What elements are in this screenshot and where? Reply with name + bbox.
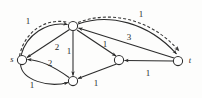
node-v1[interactable]	[68, 21, 77, 30]
flow-network-figure: s t 1 1 2 1 1 3 2 1 1 1	[0, 0, 202, 98]
edge-label-v1-v3: 1	[103, 40, 108, 49]
node-label-s: s	[10, 55, 13, 64]
edge-label-v1-v2: 1	[67, 47, 72, 56]
edge-label-v2-s: 2	[48, 59, 53, 68]
node-s[interactable]	[17, 55, 26, 64]
node-v3[interactable]	[114, 55, 123, 64]
node-label-t: t	[189, 56, 191, 65]
edge-label-t-v1: 3	[127, 33, 132, 42]
edge-v1-s	[27, 30, 70, 58]
edge-v2-v3	[78, 64, 117, 79]
node-v2[interactable]	[68, 76, 77, 85]
edge-s-v2	[21, 65, 69, 85]
edge-label-s-v2: 1	[30, 81, 35, 90]
edge-label-s-v1: 1	[26, 17, 31, 26]
node-t[interactable]	[173, 56, 182, 65]
edge-label-v2-v3: 1	[94, 79, 99, 88]
edge-s-v1	[21, 24, 68, 56]
edge-label-v1-s: 2	[55, 43, 60, 52]
dashed-augmenting-path-segment-s-v1	[20, 21, 69, 56]
edge-label-v1-t: 1	[139, 10, 144, 19]
edge-label-t-v3: 1	[146, 69, 151, 78]
edge-t-v3	[125, 61, 174, 62]
